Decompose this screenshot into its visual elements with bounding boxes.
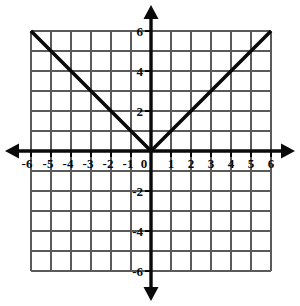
x-tick-label: 4 [228,156,235,171]
y-axis-arrow-up-icon [144,5,159,19]
x-tick-label: -6 [22,156,33,171]
graph-canvas: -6 -5 -4 -3 -2 -1 0 1 2 3 4 5 6 6 4 2 -2… [0,0,300,306]
x-tick-label: 1 [168,156,175,171]
x-tick-label: 2 [188,156,195,171]
x-tick-label: 6 [268,156,275,171]
x-tick-label: 3 [208,156,215,171]
x-tick-label: -1 [123,156,134,171]
y-axis-arrow-down-icon [144,287,159,301]
x-tick-label: -4 [63,156,74,171]
x-tick-label: -5 [43,156,54,171]
x-tick-label: -3 [83,156,94,171]
y-tick-label: 4 [137,64,144,79]
coordinate-plane-figure: -6 -5 -4 -3 -2 -1 0 1 2 3 4 5 6 6 4 2 -2… [0,0,300,306]
y-tick-label: -6 [132,264,143,279]
x-axis-tick-labels: -6 -5 -4 -3 -2 -1 0 1 2 3 4 5 6 [22,156,275,171]
x-tick-label: -2 [103,156,114,171]
x-axis-arrow-right-icon [281,144,295,159]
y-tick-label: -4 [132,224,143,239]
y-tick-label: -2 [132,184,143,199]
x-axis-arrow-left-icon [5,144,19,159]
x-tick-label: 0 [141,156,148,171]
y-tick-label: 2 [137,104,144,119]
x-tick-label: 5 [248,156,255,171]
y-tick-label: 6 [137,24,144,39]
